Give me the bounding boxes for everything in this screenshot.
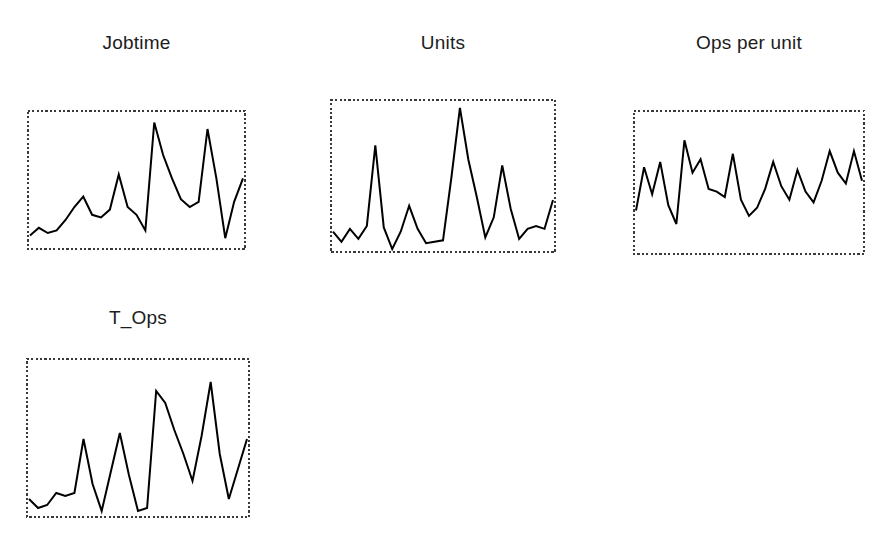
plot-border-jobtime	[28, 111, 245, 249]
panel-t-ops: T_Ops	[26, 308, 250, 518]
panel-title-ops-per-unit: Ops per unit	[633, 33, 865, 52]
plot-border-ops-per-unit	[634, 111, 864, 254]
plot-svg-ops-per-unit	[633, 110, 865, 255]
panel-jobtime: Jobtime	[27, 33, 246, 250]
series-line-ops-per-unit	[636, 140, 862, 224]
series-line-jobtime	[30, 123, 243, 239]
plot-frame-jobtime	[27, 110, 246, 250]
panel-units: Units	[330, 33, 556, 253]
plot-svg-jobtime	[27, 110, 246, 250]
panel-ops-per-unit: Ops per unit	[633, 33, 865, 255]
series-line-t-ops	[29, 382, 247, 511]
plot-frame-ops-per-unit	[633, 110, 865, 255]
panel-title-t-ops: T_Ops	[26, 308, 250, 327]
plot-svg-units	[330, 99, 556, 253]
series-line-units	[333, 108, 553, 249]
panel-title-jobtime: Jobtime	[27, 33, 246, 52]
panel-title-units: Units	[330, 33, 556, 52]
plot-frame-t-ops	[26, 358, 250, 518]
small-multiples-figure: Jobtime Units Ops per unit T_Ops	[0, 0, 890, 540]
plot-frame-units	[330, 99, 556, 253]
plot-svg-t-ops	[26, 358, 250, 518]
